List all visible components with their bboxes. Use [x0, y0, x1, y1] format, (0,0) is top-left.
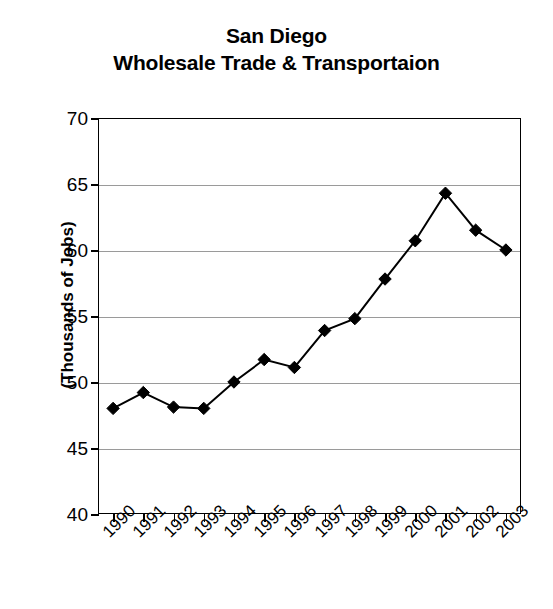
y-axis-tick-mark — [91, 514, 99, 516]
data-point-marker — [107, 402, 119, 414]
y-axis-tick-label: 55 — [42, 307, 88, 326]
chart-title-line-1: San Diego — [0, 22, 553, 49]
data-point-marker — [167, 401, 179, 413]
data-series-jobs — [98, 118, 521, 514]
y-axis-tick-label: 40 — [42, 505, 88, 524]
y-axis-tick-label: 60 — [42, 241, 88, 260]
data-point-marker — [500, 244, 512, 256]
chart-figure: San Diego Wholesale Trade & Transportaio… — [0, 0, 553, 609]
series-line — [113, 193, 506, 408]
data-point-marker — [137, 386, 149, 398]
chart-title: San Diego Wholesale Trade & Transportaio… — [0, 22, 553, 77]
y-axis-tick-label: 70 — [42, 109, 88, 128]
y-axis-tick-label: 65 — [42, 175, 88, 194]
y-axis-tick-label: 45 — [42, 439, 88, 458]
chart-title-line-2: Wholesale Trade & Transportaion — [0, 49, 553, 76]
y-axis-tick-label: 50 — [42, 373, 88, 392]
